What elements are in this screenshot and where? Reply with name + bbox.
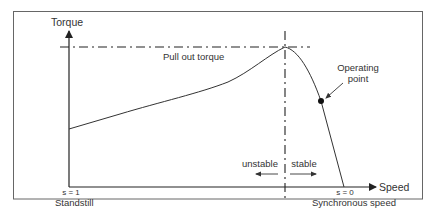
standstill-label: Standstill: [55, 197, 94, 208]
operating-point-arrow: [326, 83, 343, 98]
speed-axis-label: Speed: [379, 181, 410, 193]
pull-out-torque-label: Pull out torque: [163, 51, 224, 62]
diagram-frame: [14, 12, 423, 200]
torque-axis-label: Torque: [51, 16, 83, 28]
slip-one-label: s = 1: [62, 188, 80, 197]
operating-point-label-line1: Operating: [337, 62, 379, 73]
stable-label: stable: [291, 158, 316, 169]
unstable-label: unstable: [242, 158, 278, 169]
torque-speed-diagram: Torque Speed Pull out torque Operating p…: [0, 0, 436, 223]
operating-point-marker: [318, 98, 324, 104]
synchronous-speed-label: Synchronous speed: [312, 197, 396, 208]
slip-zero-label: s = 0: [336, 188, 354, 197]
operating-point-label-line2: point: [348, 73, 369, 84]
